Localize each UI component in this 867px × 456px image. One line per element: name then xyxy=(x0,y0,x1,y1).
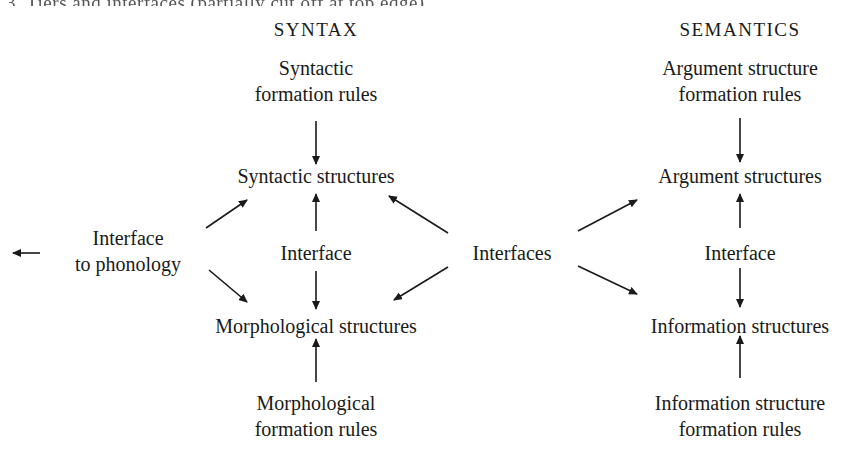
arrow-phon-to-syn-structures xyxy=(206,200,247,228)
arrow-layer xyxy=(0,0,867,456)
arrow-interfaces-to-morph-structures xyxy=(394,267,448,300)
arrow-interfaces-to-info-structures xyxy=(578,266,637,294)
arrow-phon-to-morph-structures xyxy=(209,270,247,302)
arrow-interfaces-to-syn-structures xyxy=(389,196,448,233)
arrow-interfaces-to-arg-structures xyxy=(578,200,637,231)
